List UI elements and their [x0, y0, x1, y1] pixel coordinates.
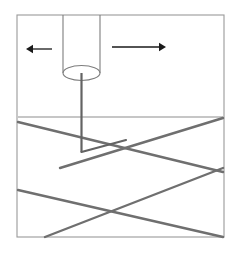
figure-root: [0, 0, 234, 254]
diagram-canvas: [0, 0, 234, 254]
